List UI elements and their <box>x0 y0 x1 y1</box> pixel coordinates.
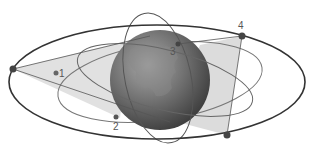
satellite-bottom <box>224 132 231 139</box>
satellite-3 <box>176 42 181 47</box>
label-2: 2 <box>113 121 119 132</box>
label-4: 4 <box>238 20 244 31</box>
diagram-canvas: 1 2 3 4 <box>0 0 313 150</box>
orbit-diagram: 1 2 3 4 <box>0 0 313 150</box>
satellite-left <box>10 66 17 73</box>
label-3: 3 <box>170 46 176 57</box>
label-1: 1 <box>59 68 65 79</box>
satellite-1 <box>54 71 59 76</box>
satellite-4 <box>239 33 246 40</box>
satellite-2 <box>114 115 119 120</box>
